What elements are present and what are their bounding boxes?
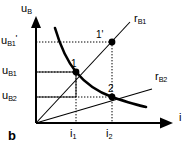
y-tick-ub2-sub: B2: [8, 94, 16, 103]
x-tick-label-i1: i1: [70, 128, 76, 139]
x-tick-label-i2: i2: [106, 128, 112, 139]
y-axis-label-sub: B: [27, 7, 32, 16]
point-1-marker: [73, 69, 80, 76]
point-1-prime-marker: [109, 39, 116, 46]
y-axis-arrowhead: [31, 16, 41, 28]
helper-segments-group: [36, 72, 76, 97]
y-tick-label-ub2: uB2: [2, 90, 17, 101]
y-tick-label-ub1-prime: uB1': [1, 35, 17, 46]
x-axis-arrowhead: [160, 118, 173, 129]
curve-rb1-sub: B1: [138, 17, 146, 26]
x-tick-i2-sub: 2: [108, 132, 112, 141]
panel-label: b: [8, 129, 16, 142]
curve-label-rb1: rB1: [134, 13, 146, 24]
x-tick-i1-sub: 1: [72, 132, 76, 141]
curve-label-rb2: rB2: [155, 71, 167, 82]
load-line-rb1: [36, 22, 130, 123]
curve-rb2-sub: B2: [159, 75, 167, 84]
load-line-rb2: [36, 89, 152, 123]
y-tick-ub1-prime-sub: B1: [7, 39, 15, 48]
figure-container: uB i uB1' uB1 uB2 i1 i2 rB1 rB2 1' 1 2 b: [0, 0, 192, 152]
x-axis-label: i: [179, 112, 181, 123]
y-tick-label-ub1: uB1: [2, 65, 17, 76]
y-tick-ub1-sub: B1: [8, 69, 16, 78]
point-label-1-prime: 1': [96, 30, 103, 40]
point-label-1: 1: [71, 59, 77, 69]
point-label-2: 2: [108, 84, 114, 94]
y-axis-label: uB: [21, 3, 32, 14]
point-2-marker: [109, 94, 116, 101]
